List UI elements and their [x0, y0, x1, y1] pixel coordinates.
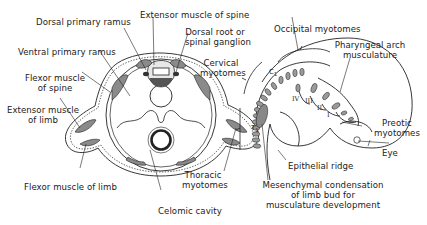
mark-arch-iv: IV: [292, 94, 299, 104]
label-mesenchymal-condensation: Mesenchymal condensation of limb bud for…: [262, 180, 384, 210]
label-thoracic-myotomes: Thoracic myotomes: [182, 170, 224, 190]
label-epithelial-ridge: Epithelial ridge: [288, 161, 353, 171]
dorsal-root-ganglion-right: [173, 72, 179, 76]
label-preotic-myotomes: Preotic myotomes: [374, 118, 420, 138]
eye: [354, 137, 360, 143]
mark-arch-i: I: [327, 110, 330, 120]
label-occipital-myotomes: Occipital myotomes: [274, 24, 361, 34]
dorsal-root-ganglion-left: [143, 72, 149, 76]
label-dorsal-primary-ramus: Dorsal primary ramus: [36, 17, 131, 27]
label-extensor-muscle-of-limb: Extensor muscle of limb: [6, 105, 80, 125]
diagram-figure: Dorsal primary ramus Extensor muscle of …: [0, 0, 427, 225]
spinal-cord: [148, 61, 175, 88]
label-flexor-muscle-of-spine: Flexor muscle of spine: [24, 73, 86, 93]
mark-arch-iii: III: [305, 96, 313, 106]
label-ventral-primary-ramus: Ventral primary ramus: [18, 47, 116, 57]
occipital-bracket: [278, 46, 330, 62]
label-extensor-muscle-of-spine: Extensor muscle of spine: [140, 10, 249, 20]
label-flexor-muscle-of-limb: Flexor muscle of limb: [24, 182, 117, 192]
label-pharyngeal-arch-musculature: Pharyngeal arch musculature: [334, 40, 406, 60]
mark-arch-ii: II: [317, 103, 322, 113]
cervical-bracket: [242, 62, 262, 94]
mark-c1: C1: [269, 67, 277, 79]
label-cervical-myotomes: Cervical myotomes: [200, 58, 242, 78]
mark-t1: T1: [251, 123, 259, 135]
label-celomic-cavity: Celomic cavity: [158, 206, 222, 216]
label-dorsal-root-ganglion: Dorsal root or spinal ganglion: [185, 27, 245, 47]
label-eye: Eye: [382, 148, 398, 158]
